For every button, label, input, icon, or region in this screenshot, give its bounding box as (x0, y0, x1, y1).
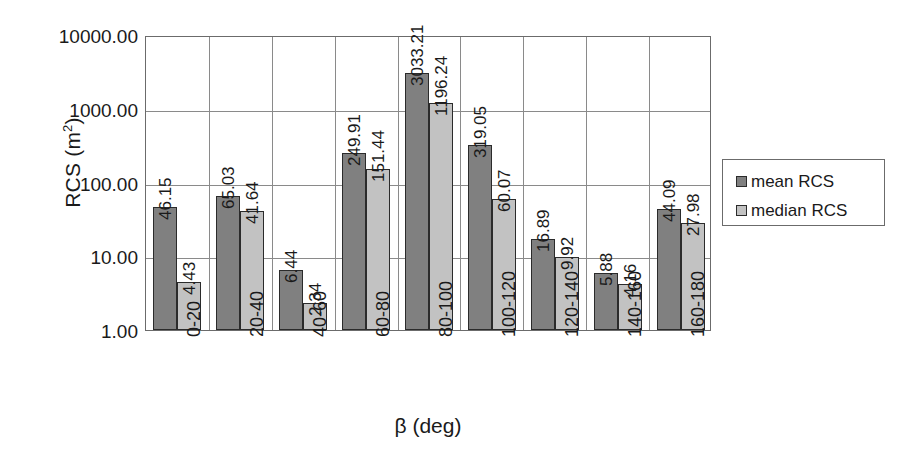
x-axis-tick-label: 140-160 (626, 271, 644, 337)
bar-value-label: 1196.24 (433, 56, 450, 116)
x-axis-tick-label: 60-80 (374, 291, 392, 337)
bar-group: 249.91151.44 (335, 37, 398, 330)
bar-group: 6.442.34 (272, 37, 335, 330)
bar-mean-rcs[interactable] (468, 145, 492, 330)
x-axis-tick-label: 0-20 (185, 301, 203, 337)
bar-mean-rcs[interactable] (216, 196, 240, 330)
y-axis-tick-label: 10.00 (28, 248, 138, 267)
y-axis-tick-label: 100.00 (28, 175, 138, 194)
bar-value-label: 27.98 (685, 194, 702, 237)
bar-value-label: 249.91 (346, 114, 363, 166)
x-axis-tick-label: 120-140 (563, 271, 581, 337)
bar-value-label: 60.07 (496, 169, 513, 212)
legend-item[interactable]: median RCS (736, 202, 847, 219)
legend-swatch-median-icon (736, 205, 747, 216)
bar-mean-rcs[interactable] (405, 73, 429, 330)
legend-swatch-mean-icon (736, 176, 747, 187)
bar-value-label: 3033.21 (409, 25, 426, 86)
bar-value-label: 4.43 (181, 262, 198, 295)
y-axis-tick-labels: 10000.001000.00100.0010.001.00 (28, 0, 138, 458)
bar-mean-rcs[interactable] (657, 209, 681, 330)
x-axis-tick-label: 100-120 (500, 271, 518, 337)
chart-legend: mean RCSmedian RCS (722, 159, 885, 226)
legend-item[interactable]: mean RCS (736, 173, 834, 190)
bar-group: 65.0341.64 (209, 37, 272, 330)
legend-label: mean RCS (751, 173, 834, 190)
bar-value-label: 46.15 (157, 178, 174, 221)
bar-value-label: 9.92 (559, 236, 576, 269)
bar-value-label: 6.44 (283, 250, 300, 283)
bar-value-label: 319.05 (472, 106, 489, 158)
x-axis-tick-label: 160-180 (689, 271, 707, 337)
bar-value-label: 44.09 (661, 179, 678, 222)
bar-value-label: 41.64 (244, 181, 261, 224)
bar-group: 46.154.43 (146, 37, 209, 330)
y-axis-tick-label: 1.00 (28, 322, 138, 341)
x-axis-tick-label: 20-40 (248, 291, 266, 337)
y-axis-tick-label: 10000.00 (28, 27, 138, 46)
bar-mean-rcs[interactable] (342, 153, 366, 330)
bar-value-label: 65.03 (220, 167, 237, 210)
legend-label: median RCS (751, 202, 847, 219)
bar-value-label: 151.44 (370, 130, 387, 182)
bar-value-label: 5.88 (598, 253, 615, 286)
x-axis-tick-labels: 0-2020-4040-6060-8080-100100-120120-1401… (145, 331, 711, 421)
rcs-bar-chart: RCS (m2) 10000.001000.00100.0010.001.00 … (0, 0, 913, 458)
x-axis-tick-label: 40-60 (311, 291, 329, 337)
bar-mean-rcs[interactable] (531, 239, 555, 330)
x-axis-tick-label: 80-100 (437, 281, 455, 337)
bar-mean-rcs[interactable] (153, 207, 177, 330)
x-axis-title: β (deg) (145, 414, 711, 438)
y-axis-tick-label: 1000.00 (28, 101, 138, 120)
bar-value-label: 16.89 (535, 210, 552, 253)
